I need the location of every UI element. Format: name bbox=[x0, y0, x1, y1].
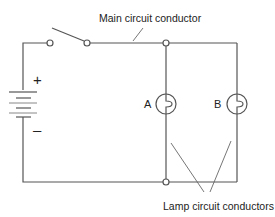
lamp-a-label: A bbox=[144, 98, 152, 110]
battery bbox=[9, 92, 37, 117]
battery-positive-label: + bbox=[33, 71, 42, 88]
lamp-conductors-label: Lamp circuit conductors bbox=[163, 200, 274, 212]
lamp-a bbox=[156, 94, 176, 114]
battery-negative-label: – bbox=[33, 121, 42, 138]
circuit-diagram: Main circuit conductor A B + – bbox=[0, 0, 275, 217]
switch-contact-right bbox=[84, 40, 90, 46]
lamp-b bbox=[227, 94, 247, 114]
wire-bottom-left bbox=[23, 117, 163, 182]
switch bbox=[47, 28, 90, 46]
lamp-conductor-leader-a bbox=[171, 143, 204, 192]
main-conductor-leader bbox=[133, 28, 143, 41]
switch-contact-left bbox=[47, 40, 53, 46]
switch-arm bbox=[52, 28, 84, 41]
lamp-b-label: B bbox=[214, 98, 221, 110]
lamp-conductor-leader-b bbox=[210, 141, 231, 192]
junction-top bbox=[163, 40, 169, 46]
junction-bottom bbox=[163, 179, 169, 185]
main-conductor-label: Main circuit conductor bbox=[99, 12, 202, 24]
